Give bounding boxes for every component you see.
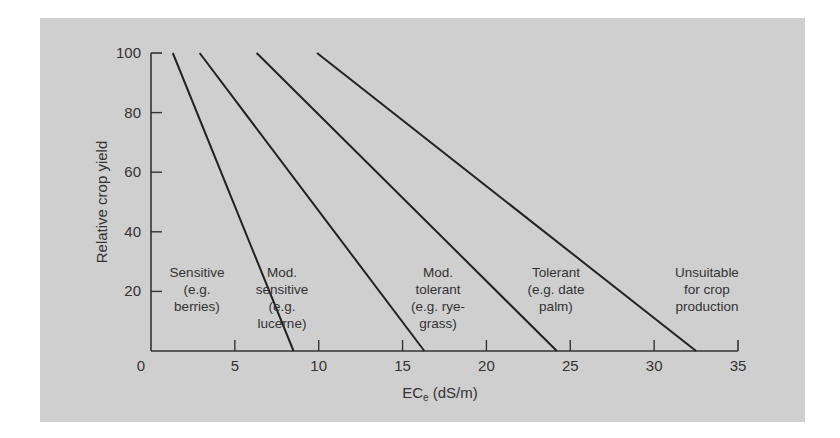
zone-label: Tolerant(e.g. datepalm) bbox=[527, 265, 584, 314]
x-tick-label: 35 bbox=[730, 357, 747, 374]
y-tick-label: 60 bbox=[124, 163, 141, 180]
x-tick-label: 0 bbox=[137, 357, 145, 374]
x-tick-label: 25 bbox=[562, 357, 579, 374]
x-axis-title: ECe (dS/m) bbox=[402, 384, 478, 403]
boundary-line bbox=[257, 53, 557, 351]
y-ticks bbox=[151, 113, 162, 292]
y-axis-title: Relative crop yield bbox=[93, 141, 110, 264]
x-tick-label: 15 bbox=[394, 357, 411, 374]
y-tick-labels: 20406080100 bbox=[116, 44, 141, 299]
x-tick-label: 30 bbox=[646, 357, 663, 374]
x-tick-label: 5 bbox=[231, 357, 239, 374]
x-tick-label: 10 bbox=[310, 357, 327, 374]
zone-label: Mod.tolerant(e.g. rye-grass) bbox=[411, 265, 465, 331]
zone-label: Sensitive(e.g.berries) bbox=[170, 265, 225, 314]
zone-label: Unsuitablefor cropproduction bbox=[675, 265, 739, 314]
boundary-line bbox=[317, 53, 696, 351]
x-tick-labels: 05101520253035 bbox=[137, 357, 747, 374]
x-tick-label: 20 bbox=[478, 357, 495, 374]
x-ticks bbox=[235, 340, 654, 351]
salinity-tolerance-chart: 20406080100 05101520253035 Relative crop… bbox=[0, 0, 840, 438]
zone-labels: Sensitive(e.g.berries)Mod.sensitive(e.g.… bbox=[170, 265, 739, 331]
y-tick-label: 40 bbox=[124, 223, 141, 240]
y-tick-label: 80 bbox=[124, 104, 141, 121]
y-tick-label: 20 bbox=[124, 282, 141, 299]
y-tick-label: 100 bbox=[116, 44, 141, 61]
